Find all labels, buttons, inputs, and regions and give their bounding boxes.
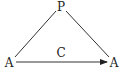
node-label-p: P [57,0,65,14]
edge-p-to-right-a [66,11,109,57]
edge-p-to-left-a [15,11,56,57]
node-label-right-a: A [109,56,119,70]
node-label-left-a: A [4,56,14,70]
triangle-diagram: P A A C [0,0,122,75]
edge-label-c: C [56,46,65,60]
